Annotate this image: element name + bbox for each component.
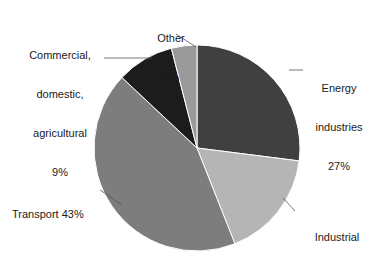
slice-label-other-line1: Other	[143, 32, 199, 45]
slice-label-commercial-line1: Commercial,	[16, 49, 104, 62]
slice-label-commercial-line3: agricultural	[16, 127, 104, 140]
slice-label-industrial-line1: Industrial	[300, 231, 374, 244]
slice-label-transport-line1: Transport 43%	[12, 208, 112, 221]
slice-label-other-value: 4%	[143, 71, 199, 84]
slice-label-energy-value: 27%	[306, 160, 372, 173]
pie-slice-energy-industries	[197, 45, 300, 161]
leader-line-industrial	[283, 198, 295, 211]
slice-label-industrial-combustion: Industrial combustion 17%	[300, 205, 374, 265]
slice-label-other: Other 4%	[143, 6, 199, 110]
slice-label-commercial-domestic-agricultural: Commercial, domestic, agricultural 9%	[16, 23, 104, 205]
slice-label-energy-line1: Energy	[306, 82, 372, 95]
slice-label-energy-industries: Energy industries 27%	[306, 56, 372, 199]
slice-label-commercial-line2: domestic,	[16, 88, 104, 101]
slice-label-commercial-value: 9%	[16, 166, 104, 179]
slice-label-energy-line2: industries	[306, 121, 372, 134]
pie-chart-figure: Energy industries 27% Industrial combust…	[0, 0, 374, 265]
